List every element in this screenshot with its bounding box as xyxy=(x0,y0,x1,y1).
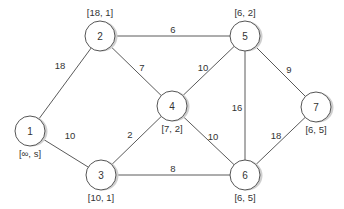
graph-diagram: 18106728101016918 1[∞, s]2[18, 1]3[10, 1… xyxy=(0,0,344,209)
node-7: 7[6, 5] xyxy=(301,92,334,135)
node-6: 6[6, 5] xyxy=(230,160,263,203)
edge-weight-label: 2 xyxy=(127,129,132,140)
edge-weight-label: 18 xyxy=(271,130,282,141)
node-distance-label: [6, 5] xyxy=(234,192,255,203)
node-id: 1 xyxy=(27,126,33,137)
node-3: 3[10, 1] xyxy=(86,160,119,203)
node-id: 5 xyxy=(242,31,248,42)
graph-svg: 18106728101016918 1[∞, s]2[18, 1]3[10, 1… xyxy=(0,0,344,209)
edge-weight-label: 8 xyxy=(170,163,175,174)
edge-weight-label: 16 xyxy=(232,102,243,113)
node-distance-label: [10, 1] xyxy=(88,192,114,203)
node-5: 5[6, 2] xyxy=(230,7,263,52)
node-distance-label: [6, 5] xyxy=(305,124,326,135)
node-id: 6 xyxy=(242,170,248,181)
node-1: 1[∞, s] xyxy=(15,116,48,159)
edge-weight-label: 10 xyxy=(198,62,209,73)
node-2: 2[18, 1] xyxy=(85,7,118,52)
edge-weight-label: 10 xyxy=(208,131,219,142)
node-id: 3 xyxy=(98,170,104,181)
edge-1-2 xyxy=(30,36,100,131)
node-distance-label: [7, 2] xyxy=(161,123,182,134)
edge-weight-label: 7 xyxy=(139,62,144,73)
node-id: 4 xyxy=(169,101,175,112)
edge-weight-label: 10 xyxy=(65,130,76,141)
node-id: 2 xyxy=(97,31,103,42)
node-id: 7 xyxy=(313,102,319,113)
node-distance-label: [6, 2] xyxy=(234,7,255,18)
edge-weight-label: 6 xyxy=(170,24,175,35)
node-distance-label: [∞, s] xyxy=(19,148,41,159)
edge-weight-label: 9 xyxy=(286,64,291,75)
edge-weight-label: 18 xyxy=(55,60,66,71)
node-4: 4[7, 2] xyxy=(157,91,190,134)
node-distance-label: [18, 1] xyxy=(87,7,113,18)
